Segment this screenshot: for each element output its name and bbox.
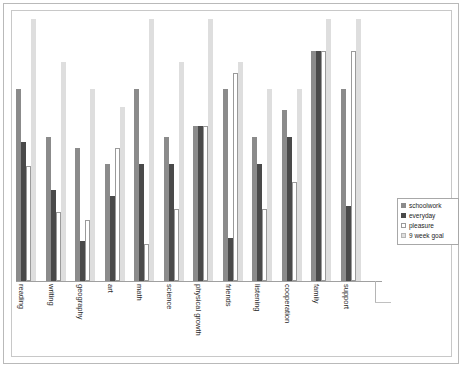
legend-item-label: pleasure [409, 222, 434, 230]
bar-group [46, 14, 66, 281]
bar-group [16, 14, 36, 281]
bar-9-week-goal-listening[interactable] [267, 89, 272, 281]
legend-swatch-icon [401, 213, 406, 218]
bar-9-week-goal-family[interactable] [326, 19, 331, 281]
x-axis-label: listening [253, 284, 261, 312]
x-axis-label: friends [224, 284, 232, 307]
x-axis-label: art [106, 284, 114, 293]
bar-group [252, 14, 272, 281]
legend-item[interactable]: schoolwork [401, 201, 456, 210]
bar-9-week-goal-reading[interactable] [31, 19, 36, 281]
legend-item-label: everyday [409, 212, 435, 220]
legend-item-label: schoolwork [409, 202, 442, 210]
legend-item[interactable]: pleasure [401, 221, 456, 230]
bar-group [134, 14, 154, 281]
x-axis-label: family [312, 284, 320, 304]
legend-item[interactable]: 9 week goal [401, 231, 456, 240]
chart-title [4, 0, 460, 5]
bar-group [193, 14, 213, 281]
bar-9-week-goal-cooperation[interactable] [297, 89, 302, 281]
legend-item[interactable]: everyday [401, 211, 456, 220]
x-axis-label: physical growth [194, 284, 202, 336]
chart-frame: readingwritinggeographyartmathsciencephy… [3, 3, 459, 364]
bar-group [164, 14, 184, 281]
legend-swatch-icon [401, 233, 406, 238]
x-axis-label: cooperation [283, 284, 291, 323]
legend-swatch-icon [401, 203, 406, 208]
plot-area [16, 14, 376, 281]
bar-9-week-goal-math[interactable] [149, 19, 154, 281]
x-axis-label: geography [76, 284, 84, 319]
bar-group [341, 14, 361, 281]
x-axis-label: reading [17, 284, 25, 309]
legend-swatch-icon [401, 223, 406, 228]
bar-group [311, 14, 331, 281]
x-axis-label: math [135, 284, 143, 301]
bar-group [105, 14, 125, 281]
legend-item-label: 9 week goal [409, 232, 444, 240]
bar-9-week-goal-writing[interactable] [61, 62, 66, 281]
bar-group [75, 14, 95, 281]
x-axis-line [16, 281, 382, 282]
bar-9-week-goal-science[interactable] [179, 62, 184, 281]
bar-9-week-goal-art[interactable] [120, 107, 125, 281]
bar-9-week-goal-geography[interactable] [90, 89, 95, 281]
bar-9-week-goal-physical-growth[interactable] [208, 19, 213, 281]
x-axis-labels: readingwritinggeographyartmathsciencephy… [16, 284, 382, 369]
x-axis-label: writing [47, 284, 55, 306]
bar-group [223, 14, 243, 281]
bar-9-week-goal-friends[interactable] [238, 62, 243, 281]
x-axis-label: support [342, 284, 350, 309]
chart-legend: schoolworkeverydaypleasure9 week goal [397, 198, 459, 245]
bar-group [282, 14, 302, 281]
x-axis-label: science [165, 284, 173, 309]
bar-9-week-goal-support[interactable] [356, 19, 361, 281]
